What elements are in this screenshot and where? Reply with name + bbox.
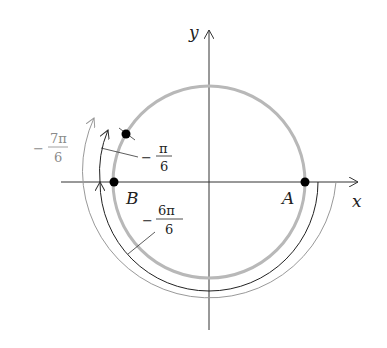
point-A [301,178,310,187]
svg-text:−: − [142,213,153,228]
svg-text:π: π [159,141,168,156]
svg-text:7π: 7π [50,131,67,146]
svg-text:−: − [33,141,44,156]
unit-circle-diagram: y x A B − π 6 − 6π 6 − 7π 6 [0,0,387,348]
point-B [110,178,119,187]
label-B: B [125,188,139,208]
point-P [122,130,131,139]
fraction-neg-7pi-6: − 7π 6 [33,131,68,165]
arc-neg-pi-6 [100,130,108,182]
svg-text:6: 6 [165,222,173,237]
label-y: y [188,22,199,42]
svg-text:−: − [141,150,152,165]
label-A: A [280,188,294,208]
fraction-neg-pi-6: − π 6 [141,141,172,174]
fraction-neg-6pi-6: − 6π 6 [142,203,183,237]
svg-text:6π: 6π [158,203,175,218]
svg-text:6: 6 [160,159,168,174]
svg-text:6: 6 [54,150,62,165]
label-x: x [352,191,362,211]
